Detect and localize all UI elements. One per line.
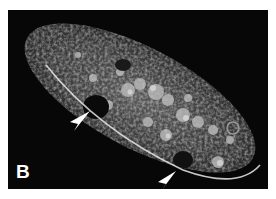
cell-image xyxy=(8,10,268,189)
arrowhead-lower xyxy=(158,171,176,189)
micrograph-panel: B xyxy=(8,10,268,189)
cell-body xyxy=(8,10,268,189)
panel-label: B xyxy=(16,162,30,181)
